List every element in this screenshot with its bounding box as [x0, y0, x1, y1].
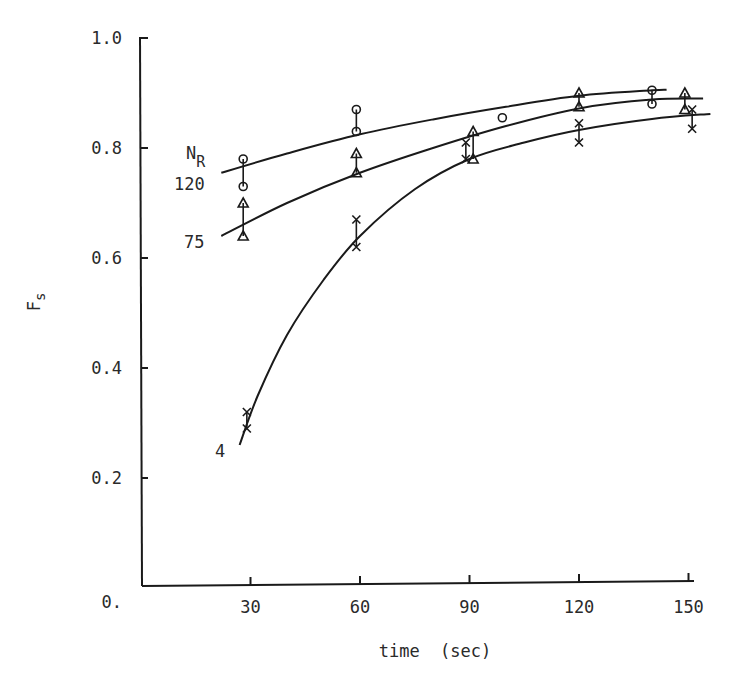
y-tick-label: 0.4	[91, 358, 122, 378]
x-ticks: 306090120150	[240, 573, 704, 617]
y-tick-label: 0.2	[91, 468, 122, 488]
fit-curve	[221, 98, 703, 236]
circle-marker	[498, 114, 506, 122]
x-axis-title: time (sec)	[379, 641, 492, 661]
fit-curve	[221, 90, 666, 173]
chart: 0.0.20.40.60.81.0 306090120150 Fs time (…	[0, 0, 730, 689]
y-axis-title-main: F	[24, 301, 44, 311]
y-axis	[140, 37, 142, 586]
y-axis-title-subscript: s	[32, 293, 48, 301]
x-tick-label: 150	[673, 597, 704, 617]
y-tick-label: 0.	[102, 592, 122, 612]
svg-text:Fs: Fs	[24, 293, 48, 312]
y-tick-label: 0.6	[91, 248, 122, 268]
axes: 0.0.20.40.60.81.0 306090120150	[91, 28, 704, 617]
series-75	[221, 88, 703, 240]
x-axis	[142, 581, 694, 586]
legend-title-main: N	[186, 143, 196, 163]
series-4	[240, 106, 711, 446]
series-120	[221, 86, 666, 190]
series-label-120: 120	[174, 174, 205, 194]
y-tick-label: 1.0	[91, 28, 122, 48]
x-tick-label: 60	[350, 597, 370, 617]
y-tick-label: 0.8	[91, 138, 122, 158]
legend-title: NR	[186, 143, 206, 171]
x-tick-label: 120	[564, 597, 595, 617]
x-tick-label: 30	[240, 597, 260, 617]
series-label-4: 4	[215, 441, 225, 461]
x-tick-label: 90	[459, 597, 479, 617]
y-axis-title: Fs	[24, 293, 48, 312]
series-label-75: 75	[184, 232, 204, 252]
plot-area	[221, 86, 710, 445]
legend-title-subscript: R	[196, 153, 206, 171]
